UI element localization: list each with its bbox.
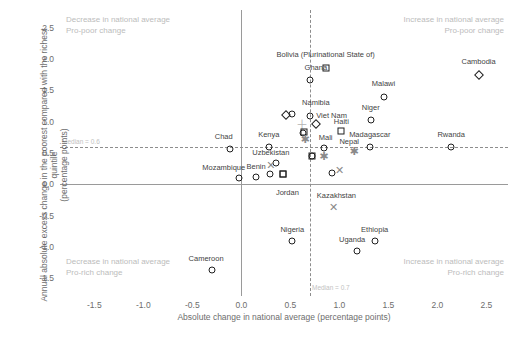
- annotation-line-2: Pro-poor change: [66, 25, 170, 36]
- point-label: Benin: [246, 162, 265, 171]
- data-point: ✱: [350, 147, 359, 156]
- y-axis-title: Annual absolute excess change in the poo…: [39, 15, 69, 315]
- scatter-chart: -1.5-1.0-0.50.00.51.01.52.02.5 Median = …: [0, 0, 524, 352]
- data-point: [448, 143, 455, 150]
- y-zero-axis: [241, 10, 242, 296]
- data-point: [266, 170, 273, 177]
- x-zero-axis: [60, 184, 508, 185]
- annotation-line-2: Pro-poor change: [403, 25, 504, 36]
- annotation-top-right: Increase in national averagePro-poor cha…: [403, 14, 504, 36]
- data-point: [226, 146, 233, 153]
- data-point: [366, 143, 373, 150]
- point-label: Uzbekistan: [252, 148, 289, 157]
- point-label: Niger: [362, 103, 380, 112]
- point-label: Chad: [215, 132, 233, 141]
- point-label: Kazakhstan: [317, 191, 356, 200]
- annotation-line-2: Pro-rich change: [403, 267, 504, 278]
- x-tick-label: 0.0: [235, 300, 247, 310]
- x-tick-label: 1.5: [382, 300, 394, 310]
- data-point: [236, 175, 243, 182]
- point-label: Mozambique: [202, 163, 245, 172]
- data-point: [311, 119, 321, 129]
- data-point: [306, 77, 313, 84]
- data-point: [354, 248, 361, 255]
- x-axis-ticks: -1.5-1.0-0.50.00.51.01.52.02.5: [60, 296, 508, 312]
- annotation-line-1: Increase in national average: [403, 256, 504, 267]
- point-label: Cameroon: [189, 254, 224, 263]
- data-point: [367, 116, 374, 123]
- x-axis-title: Absolute change in national average (per…: [60, 312, 508, 322]
- point-label: Cambodia: [461, 57, 495, 66]
- point-label: Uganda: [339, 235, 365, 244]
- annotation-line-1: Increase in national average: [403, 14, 504, 25]
- point-label: Nigeria: [280, 225, 304, 234]
- median-x-label: Median = 0.7: [312, 284, 350, 291]
- point-label: Kenya: [258, 130, 279, 139]
- annotation-bottom-left: Decrease in national averagePro-rich cha…: [66, 256, 170, 278]
- x-tick-label: 0.5: [284, 300, 296, 310]
- data-point: ✱: [319, 153, 328, 162]
- x-tick-label: 2.5: [481, 300, 493, 310]
- data-point: ✕: [335, 166, 344, 175]
- point-label: Ethiopia: [361, 225, 388, 234]
- data-point: [380, 93, 387, 100]
- point-label: Ghana: [305, 63, 328, 72]
- point-label: Malawi: [372, 79, 395, 88]
- annotation-line-1: Decrease in national average: [66, 14, 170, 25]
- data-point: [208, 267, 215, 274]
- x-tick-label: -1.5: [87, 300, 102, 310]
- annotation-line-2: Pro-rich change: [66, 267, 170, 278]
- annotation-top-left: Decrease in national averagePro-poor cha…: [66, 14, 170, 36]
- x-tick-label: -0.5: [185, 300, 200, 310]
- y-axis-title-line2: (percentage points): [59, 15, 69, 315]
- data-point: [308, 153, 315, 160]
- point-label: Jordan: [276, 188, 299, 197]
- data-point: ✕: [329, 204, 338, 213]
- x-tick-label: -1.0: [136, 300, 151, 310]
- data-point: ✱: [301, 136, 310, 145]
- data-point: [338, 128, 345, 135]
- point-label: Bolivia (Plurinational State of): [276, 50, 374, 59]
- data-point: [279, 171, 286, 178]
- y-axis-title-line1: Annual absolute excess change in the poo…: [39, 15, 59, 315]
- annotation-bottom-right: Increase in national averagePro-rich cha…: [403, 256, 504, 278]
- data-point: [289, 237, 296, 244]
- point-label: Nepal: [339, 137, 359, 146]
- plot-area: Median = 0.6 Median = 0.7 Decrease in na…: [60, 10, 508, 296]
- data-point: ✕: [266, 161, 275, 170]
- data-point: [253, 174, 260, 181]
- x-tick-label: 2.0: [431, 300, 443, 310]
- point-label: Rwanda: [437, 130, 465, 139]
- point-label: Haiti: [334, 117, 349, 126]
- annotation-line-1: Decrease in national average: [66, 256, 170, 267]
- data-point: [371, 237, 378, 244]
- point-label: Mali: [319, 133, 333, 142]
- point-label: Namibia: [302, 98, 330, 107]
- data-point: [474, 70, 484, 80]
- x-tick-label: 1.0: [333, 300, 345, 310]
